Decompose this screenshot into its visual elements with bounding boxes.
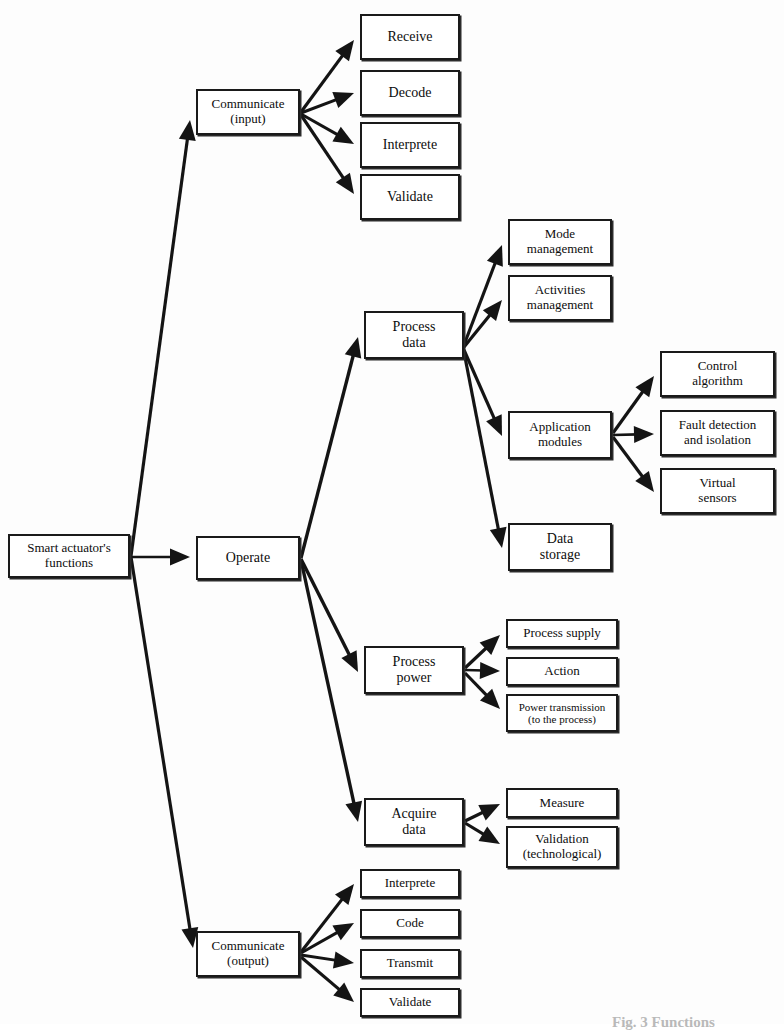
node-label: Validate: [387, 995, 434, 1010]
node-label: Virtualsensors: [696, 476, 738, 505]
arrowhead-icon: [335, 884, 354, 905]
edge-comm_out-to-transmit: [301, 952, 354, 969]
node-label: Smart actuator'sfunctions: [25, 541, 113, 570]
node-validate2[interactable]: Validate: [360, 988, 460, 1017]
node-validation[interactable]: Validation(technological): [506, 826, 618, 868]
figure-caption: Fig. 3 Functions: [612, 1014, 715, 1031]
edge-operate-to-proc_data: [301, 337, 361, 558]
node-label: Processdata: [391, 319, 438, 350]
edge-proc_data-to-data_store: [464, 352, 507, 548]
node-mode_mgmt[interactable]: Modemanagement: [508, 219, 612, 265]
arrowhead-icon: [335, 40, 354, 61]
arrowhead-icon: [635, 471, 654, 492]
node-label: Activitiesmanagement: [525, 283, 595, 312]
arrowhead-icon: [634, 426, 654, 443]
edge-comm_out-to-interprete2: [301, 884, 354, 952]
edge-root-to-operate: [131, 549, 190, 566]
arrowhead-icon: [345, 337, 361, 358]
node-proc_data[interactable]: Processdata: [364, 311, 464, 359]
node-label: Controlalgorithm: [690, 359, 745, 388]
edge-comm_out-to-code: [301, 923, 354, 953]
node-label: Acquiredata: [389, 806, 438, 837]
node-data_store[interactable]: Datastorage: [508, 523, 612, 571]
node-label: Modemanagement: [525, 227, 595, 256]
edge-app_mod-to-fault_det: [613, 426, 654, 443]
arrowhead-icon: [179, 120, 196, 141]
edge-app_mod-to-virt_sens: [613, 437, 654, 492]
node-label: Interprete: [381, 137, 439, 153]
node-transmit[interactable]: Transmit: [360, 949, 460, 978]
node-label: Code: [394, 916, 425, 931]
arrowhead-icon: [478, 826, 500, 844]
arrowhead-icon: [490, 527, 507, 548]
edge-root-to-comm_in: [131, 120, 196, 556]
node-decode[interactable]: Decode: [360, 70, 460, 116]
node-act_mgmt[interactable]: Activitiesmanagement: [508, 275, 612, 321]
edge-proc_data-to-app_mod: [464, 350, 502, 436]
arrowhead-icon: [480, 662, 500, 679]
node-label: Validate: [385, 189, 435, 205]
edge-proc_power-to-power_trans: [465, 673, 500, 709]
edge-acq_data-to-measure: [465, 804, 500, 821]
node-ctrl_algo[interactable]: Controlalgorithm: [660, 351, 775, 397]
edge-proc_data-to-mode_mgmt: [464, 245, 503, 345]
node-label: Power transmission(to the process): [517, 701, 607, 726]
node-validate1[interactable]: Validate: [360, 174, 460, 220]
node-label: Validation(technological): [521, 832, 604, 861]
arrowhead-icon: [170, 549, 190, 566]
node-label: Datastorage: [538, 531, 582, 562]
node-root[interactable]: Smart actuator'sfunctions: [8, 534, 130, 578]
node-app_mod[interactable]: Applicationmodules: [508, 411, 612, 459]
node-label: Measure: [538, 796, 587, 811]
node-receive[interactable]: Receive: [360, 14, 460, 60]
arrowhead-icon: [345, 801, 362, 822]
edge-acq_data-to-validation: [465, 823, 500, 844]
node-proc_supply[interactable]: Process supply: [506, 619, 618, 648]
edge-operate-to-proc_power: [301, 559, 358, 672]
node-label: Action: [542, 664, 581, 679]
node-virt_sens[interactable]: Virtualsensors: [660, 468, 775, 514]
arrowhead-icon: [635, 376, 654, 397]
arrowhead-icon: [332, 92, 354, 108]
node-label: Communicate(output): [210, 939, 287, 968]
node-acq_data[interactable]: Acquiredata: [364, 798, 464, 846]
edge-proc_data-to-act_mgmt: [464, 300, 502, 347]
node-label: Operate: [224, 550, 272, 566]
node-comm_out[interactable]: Communicate(output): [196, 931, 300, 977]
arrowhead-icon: [336, 173, 354, 194]
edge-comm_in-to-validate1: [301, 115, 354, 194]
node-comm_in[interactable]: Communicate(input): [196, 89, 300, 135]
node-fault_det[interactable]: Fault detectionand isolation: [660, 410, 775, 456]
node-label: Transmit: [385, 956, 435, 971]
arrowhead-icon: [332, 923, 354, 940]
arrowhead-icon: [333, 952, 354, 969]
node-label: Receive: [385, 29, 434, 45]
node-proc_power[interactable]: Processpower: [364, 646, 464, 694]
node-code[interactable]: Code: [360, 909, 460, 938]
edge-root-to-comm_out: [131, 557, 198, 948]
node-label: Communicate(input): [210, 97, 287, 126]
node-measure[interactable]: Measure: [506, 788, 618, 818]
arrowhead-icon: [332, 127, 354, 144]
node-power_trans[interactable]: Power transmission(to the process): [506, 694, 618, 732]
node-operate[interactable]: Operate: [196, 536, 300, 580]
node-interprete2[interactable]: Interprete: [360, 869, 460, 898]
node-label: Processpower: [391, 654, 438, 685]
edge-comm_in-to-receive: [301, 40, 354, 112]
node-label: Fault detectionand isolation: [677, 418, 759, 447]
node-interprete1[interactable]: Interprete: [360, 122, 460, 168]
node-action[interactable]: Action: [506, 657, 618, 686]
node-label: Interprete: [383, 876, 438, 891]
edge-app_mod-to-ctrl_algo: [613, 376, 654, 433]
edge-operate-to-acq_data: [301, 560, 362, 822]
node-label: Decode: [387, 85, 434, 101]
node-label: Process supply: [521, 626, 603, 641]
arrowhead-icon: [487, 245, 503, 267]
node-label: Applicationmodules: [527, 420, 592, 449]
